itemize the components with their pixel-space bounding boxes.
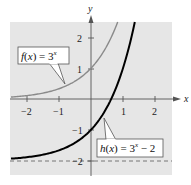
y-tick-label: 1 — [77, 64, 82, 75]
y-tick-label: −2 — [72, 156, 83, 167]
h-label: h(x) = 3x − 2 — [100, 141, 155, 155]
x-tick-label: −2 — [21, 106, 32, 117]
x-axis-arrow-icon — [173, 97, 181, 102]
chart: x y −2 −1 1 2 2 1 −1 −2 f(x) = 3x — [0, 0, 191, 185]
y-axis-arrow-icon — [89, 15, 94, 23]
y-axis-label: y — [87, 3, 93, 14]
y-tick-label: 2 — [77, 33, 82, 44]
x-tick-label: −1 — [53, 106, 64, 117]
x-axis-label: x — [183, 93, 189, 104]
y-tick-label: −1 — [72, 125, 83, 136]
x-tick-label: 2 — [152, 106, 157, 117]
x-tick-label: 1 — [121, 106, 126, 117]
f-label: f(x) = 3x — [21, 49, 58, 63]
